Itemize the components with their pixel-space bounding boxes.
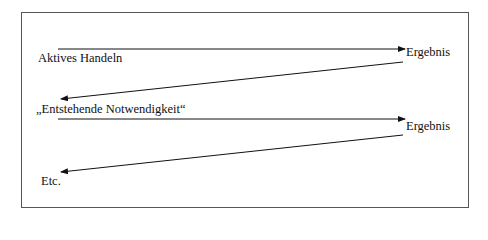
label-result-2: Ergebnis [406, 120, 450, 133]
label-result-1: Ergebnis [406, 46, 450, 59]
label-etc: Etc. [41, 175, 61, 188]
arrow-result-1-to-necessity [61, 62, 403, 99]
label-active-action: Aktives Handeln [38, 52, 122, 65]
label-emerging-necessity: „Entstehende Notwendigkeit“ [36, 103, 186, 116]
arrow-result-2-to-etc [61, 135, 403, 172]
